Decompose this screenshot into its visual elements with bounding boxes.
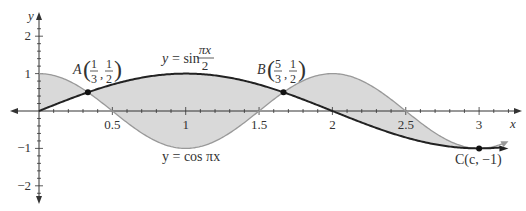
point-label-C: C(c, −1) (455, 152, 502, 168)
x-tick-label: 3 (476, 117, 483, 132)
y-tick-label: −2 (17, 178, 31, 193)
svg-text:1: 1 (290, 57, 296, 71)
cos-curve-label: y = cos πx (162, 149, 220, 164)
y-tick-label: −1 (17, 140, 31, 155)
svg-text:= sin: = sin (172, 51, 200, 66)
point-A (85, 89, 91, 95)
svg-text:2: 2 (202, 58, 209, 73)
x-tick-label: 1.5 (251, 117, 267, 132)
y-axis-down-arrow-icon (36, 196, 42, 204)
svg-text:πx: πx (199, 42, 212, 57)
svg-text:2: 2 (106, 72, 112, 86)
x-tick-label: 2.5 (398, 117, 414, 132)
svg-text:y: y (160, 51, 169, 66)
svg-text:2: 2 (290, 72, 296, 86)
svg-text:1: 1 (91, 57, 97, 71)
sin-curve-label: y = sinπx2 (160, 42, 214, 73)
axes (10, 12, 522, 204)
chart-plot: 0.511.522.5321−1−2xyA(13,12)B(53,12)C(c,… (0, 0, 526, 211)
point-label-B: B(53,12) (257, 56, 306, 86)
y-tick-label: 2 (25, 28, 32, 43)
svg-text:3: 3 (91, 72, 97, 86)
point-C (476, 145, 482, 151)
svg-text:3: 3 (275, 72, 281, 86)
y-tick-label: 1 (25, 66, 32, 81)
svg-text:A: A (72, 62, 82, 77)
svg-text:): ) (114, 56, 122, 82)
svg-text:5: 5 (275, 57, 281, 71)
svg-text:): ) (298, 56, 306, 82)
x-tick-label: 1 (182, 117, 189, 132)
y-axis-label: y (26, 8, 34, 23)
svg-text:B: B (257, 62, 266, 77)
x-axis-label: x (509, 116, 516, 131)
point-B (281, 89, 287, 95)
svg-text:,: , (284, 66, 287, 81)
x-axis-left-arrow-icon (10, 108, 18, 114)
y-axis-up-arrow-icon (36, 12, 42, 20)
x-tick-label: 2 (329, 117, 336, 132)
svg-text:(: ( (267, 56, 275, 82)
x-axis-right-arrow-icon (514, 108, 522, 114)
svg-text:,: , (100, 66, 103, 81)
svg-text:(: ( (83, 56, 91, 82)
svg-text:1: 1 (106, 57, 112, 71)
x-tick-label: 0.5 (104, 117, 120, 132)
point-label-A: A(13,12) (72, 56, 122, 86)
